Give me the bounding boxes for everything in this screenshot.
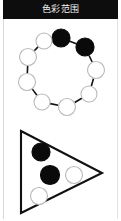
cycle-node-open-7: [19, 74, 36, 91]
triangle-region-figure: [8, 125, 112, 219]
cycle-node-filled-1: [52, 29, 70, 47]
cycle-node-open-8: [20, 49, 37, 66]
edge-n1-n2: [70, 41, 76, 43]
cycle-node-open-4: [81, 86, 97, 102]
page-content-area: [3, 19, 118, 219]
edge-n2-n3: [89, 55, 92, 61]
cycle-node-open-9: [36, 33, 52, 49]
edge-n4-n5: [75, 98, 82, 102]
cycle-node-open-5: [59, 99, 76, 116]
cycle-nodes: [19, 29, 105, 116]
document-page: 色彩范围: [0, 0, 121, 221]
edge-n3-n4: [91, 79, 93, 86]
edge-n8-n9: [34, 47, 38, 51]
triangle-node-filled-1: [32, 143, 50, 161]
cycle-graph-figure: [8, 25, 112, 121]
page-title: 色彩范围: [42, 5, 80, 14]
triangle-node-open-3: [66, 167, 83, 184]
page-header-bar: 色彩范围: [3, 0, 118, 19]
triangle-node-open-4: [31, 188, 48, 205]
edge-n5-n6: [50, 104, 58, 106]
cycle-node-open-3: [88, 62, 105, 79]
cycle-node-filled-2: [76, 38, 94, 56]
edge-n6-n7: [32, 89, 37, 95]
cycle-node-open-6: [34, 94, 50, 110]
triangle-node-filled-2: [41, 166, 60, 185]
